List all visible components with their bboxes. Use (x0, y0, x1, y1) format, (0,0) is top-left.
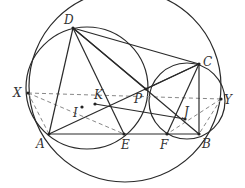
point-Y (219, 97, 222, 100)
point-B (197, 132, 200, 135)
label-P: P (133, 92, 143, 106)
label-Y: Y (224, 93, 233, 107)
label-B: B (201, 137, 211, 151)
label-F: F (159, 138, 169, 152)
label-K: K (93, 88, 104, 102)
point-A (47, 132, 50, 135)
point-C (197, 62, 200, 65)
label-I: I (72, 106, 78, 120)
point-F (165, 132, 168, 135)
label-A: A (35, 137, 45, 151)
point-K (93, 102, 96, 105)
label-J: J (181, 105, 190, 119)
diagram-canvas: DCABEFPXYKIJ (0, 0, 245, 188)
label-C: C (203, 55, 212, 69)
point-I (80, 105, 83, 108)
circumcircle (29, 0, 221, 182)
label-E: E (120, 138, 130, 152)
label-D: D (63, 13, 74, 27)
segment-DA (49, 28, 73, 134)
dashed-segment-YB (199, 99, 221, 134)
segment-DE (73, 28, 124, 134)
circle-ADE (26, 27, 148, 149)
geometry-diagram: DCABEFPXYKIJ (0, 0, 245, 188)
segment-CP (146, 64, 199, 89)
segment-DC (73, 28, 199, 64)
point-P (144, 87, 147, 90)
point-E (122, 132, 125, 135)
point-X (26, 91, 29, 94)
label-X: X (12, 86, 22, 100)
